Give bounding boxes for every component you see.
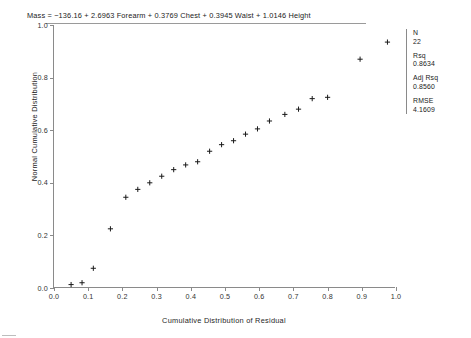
y-axis-tick [50, 183, 54, 184]
data-point-marker [325, 95, 330, 100]
x-axis-tick [122, 287, 123, 291]
plot-area: 0.00.10.20.30.40.50.60.70.80.91.00.00.20… [53, 25, 395, 288]
stat-rmse: RMSE 4.1609 [413, 97, 464, 114]
regression-equation-text: Mass = −136.16 + 2.6963 Forearm + 0.3769… [27, 11, 311, 20]
x-axis-tick [328, 287, 329, 291]
normal-quantile-plot-figure: Mass = −136.16 + 2.6963 Forearm + 0.3769… [0, 0, 471, 338]
y-axis-tick [50, 78, 54, 79]
stat-adj-rsq-value: 0.8560 [413, 83, 464, 92]
data-point-marker [108, 226, 113, 231]
stat-n: N 22 [413, 29, 464, 46]
x-axis-tick-label: 1.0 [376, 292, 416, 301]
y-axis-tick [50, 288, 54, 289]
x-axis-tick [362, 287, 363, 291]
x-axis-tick [259, 287, 260, 291]
data-point-marker [159, 174, 164, 179]
data-point-marker [231, 138, 236, 143]
stat-adj-rsq: Adj Rsq 0.8560 [413, 74, 464, 91]
y-axis-tick-label: 0.0 [22, 284, 48, 293]
statistics-box: N 22 Rsq 0.8634 Adj Rsq 0.8560 RMSE 4.16… [406, 29, 464, 114]
stat-n-value: 22 [413, 38, 464, 47]
data-point-marker [357, 57, 362, 62]
x-axis-tick [88, 287, 89, 291]
stat-rsq-label: Rsq [413, 52, 464, 61]
y-axis-tick [50, 130, 54, 131]
x-axis-tick [225, 287, 226, 291]
data-point-marker [91, 266, 96, 271]
data-point-marker [255, 126, 260, 131]
data-point-marker [385, 39, 390, 44]
data-point-marker [310, 96, 315, 101]
data-point-marker [69, 282, 74, 287]
data-point-marker [183, 162, 188, 167]
stat-adj-rsq-label: Adj Rsq [413, 74, 464, 83]
data-point-marker [282, 112, 287, 117]
data-point-marker [195, 159, 200, 164]
equation-underline [46, 23, 366, 24]
x-axis-tick [54, 287, 55, 291]
data-point-marker [267, 118, 272, 123]
data-point-marker [296, 107, 301, 112]
x-axis-tick [191, 287, 192, 291]
scatter-markers-layer [54, 25, 396, 288]
data-point-marker [147, 180, 152, 185]
data-point-marker [79, 280, 84, 285]
data-point-marker [123, 195, 128, 200]
y-axis-tick [50, 235, 54, 236]
stat-n-label: N [413, 29, 464, 38]
y-axis-title: Normal Cumulative Distribution [30, 0, 39, 257]
stat-rsq-value: 0.8634 [413, 60, 464, 69]
regression-equation: Mass = −136.16 + 2.6963 Forearm + 0.3769… [27, 11, 363, 24]
corner-rule [2, 335, 16, 336]
stat-rmse-label: RMSE [413, 97, 464, 106]
x-axis-title: Cumulative Distribution of Residual [53, 316, 395, 325]
stat-rmse-value: 4.1609 [413, 106, 464, 115]
y-axis-tick [50, 25, 54, 26]
x-axis-tick [157, 287, 158, 291]
x-axis-tick [396, 287, 397, 291]
data-point-marker [171, 167, 176, 172]
data-point-marker [135, 187, 140, 192]
x-axis-tick [293, 287, 294, 291]
data-point-marker [243, 132, 248, 137]
data-point-marker [207, 149, 212, 154]
data-point-marker [219, 142, 224, 147]
stat-rsq: Rsq 0.8634 [413, 52, 464, 69]
